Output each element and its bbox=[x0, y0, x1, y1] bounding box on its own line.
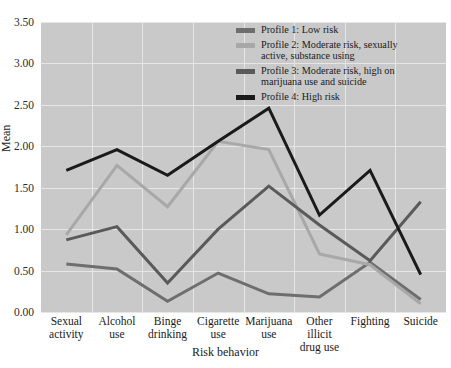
legend-item-4[interactable]: Profile 4: High risk bbox=[236, 91, 444, 103]
series-line-2 bbox=[66, 141, 420, 303]
legend-label: Profile 2: Moderate risk, sexuallyactive… bbox=[261, 39, 398, 62]
legend-swatch-icon bbox=[236, 69, 255, 74]
legend-swatch-icon bbox=[236, 28, 255, 33]
series-line-4 bbox=[66, 108, 420, 275]
legend-item-2[interactable]: Profile 2: Moderate risk, sexuallyactive… bbox=[236, 39, 444, 62]
legend: Profile 1: Low riskProfile 2: Moderate r… bbox=[236, 24, 444, 106]
legend-item-1[interactable]: Profile 1: Low risk bbox=[236, 24, 444, 36]
legend-label: Profile 1: Low risk bbox=[261, 24, 338, 36]
legend-swatch-icon bbox=[236, 95, 255, 100]
legend-swatch-icon bbox=[236, 43, 255, 48]
series-line-3 bbox=[66, 186, 420, 283]
legend-label: Profile 3: Moderate risk, high onmarijua… bbox=[261, 65, 395, 88]
legend-item-3[interactable]: Profile 3: Moderate risk, high onmarijua… bbox=[236, 65, 444, 88]
line-chart: Mean 0.000.501.001.502.002.503.003.50 Se… bbox=[0, 0, 451, 368]
series-line-1 bbox=[66, 262, 420, 301]
legend-label: Profile 4: High risk bbox=[261, 91, 340, 103]
